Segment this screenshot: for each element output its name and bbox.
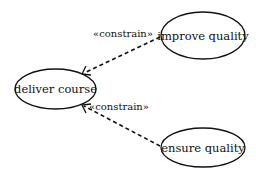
use-case-label: ensure quality xyxy=(161,141,245,155)
stereotype-label-top: «constrain» xyxy=(93,28,153,39)
use-case-label: deliver course xyxy=(14,82,97,96)
use-case-ensure-quality[interactable]: ensure quality xyxy=(161,128,245,167)
stereotype-label-bottom: «constrain» xyxy=(89,101,149,112)
dashed-dependency-line xyxy=(84,37,160,73)
dashed-dependency-line xyxy=(84,106,160,146)
use-case-improve-quality[interactable]: improve quality xyxy=(157,12,249,59)
edge-improve-to-deliver xyxy=(82,37,160,75)
use-case-label: improve quality xyxy=(157,29,249,43)
use-case-deliver-course[interactable]: deliver course xyxy=(14,69,97,109)
use-case-diagram: deliver course improve quality ensure qu… xyxy=(0,0,256,175)
